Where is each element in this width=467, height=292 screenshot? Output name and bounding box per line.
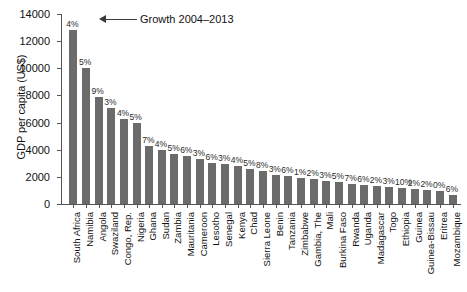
bar-data-label: 5% <box>130 113 142 122</box>
bar <box>145 146 153 204</box>
x-axis-tick <box>314 204 315 208</box>
bar-column: 4% <box>156 14 168 204</box>
x-axis-tick <box>453 204 454 208</box>
x-axis-tick <box>225 204 226 208</box>
y-axis-tick: 8000 <box>57 95 61 96</box>
bar-data-label: 6% <box>446 185 458 194</box>
y-axis-tick-label: 4000 <box>26 144 50 156</box>
y-axis-tick-label: 6000 <box>26 117 50 129</box>
x-axis-line <box>61 204 461 205</box>
bar-column: 5% <box>333 14 345 204</box>
x-axis-tick <box>137 204 138 208</box>
bar-column: 5% <box>168 14 180 204</box>
bar-data-label: 2% <box>420 180 432 189</box>
bar <box>221 164 229 204</box>
bar-data-label: 2% <box>370 176 382 185</box>
bar-data-label: 7% <box>345 174 357 183</box>
bar <box>246 169 254 204</box>
bar <box>373 186 381 204</box>
x-axis-tick <box>111 204 112 208</box>
y-axis-tick: 0 <box>57 204 61 205</box>
bar-column: 5% <box>80 14 92 204</box>
bar-data-label: 2% <box>408 179 420 188</box>
y-axis-tick-label: 2000 <box>26 171 50 183</box>
bar-column: 6% <box>282 14 294 204</box>
bar <box>82 68 90 204</box>
bar <box>411 189 419 204</box>
x-axis-tick <box>377 204 378 208</box>
x-axis-category-label: Tanzania <box>287 212 297 250</box>
bar <box>208 163 216 204</box>
bar-data-label: 5% <box>243 159 255 168</box>
x-axis-category-label: Sierra Leone <box>262 212 272 266</box>
bar <box>95 97 103 204</box>
bar <box>284 176 292 204</box>
y-axis-tick: 4000 <box>57 150 61 151</box>
x-axis-category-label: Congo, Rep. <box>123 212 133 265</box>
bar-data-label: 8% <box>256 161 268 170</box>
bar-column: 6% <box>358 14 370 204</box>
x-axis-tick <box>301 204 302 208</box>
x-axis-tick <box>276 204 277 208</box>
bar-column: 4% <box>232 14 244 204</box>
x-axis-category-label: Benin <box>275 212 285 236</box>
bar <box>196 159 204 204</box>
bar-data-label: 6% <box>180 146 192 155</box>
plot-area: 02000400060008000100001200014000 4%5%9%3… <box>61 14 461 204</box>
bar <box>335 182 343 204</box>
x-axis-category-label: Ethiopia <box>401 212 411 246</box>
bar-data-label: 6% <box>281 166 293 175</box>
x-axis-category-label: Cameroon <box>199 212 209 256</box>
x-axis-category-label: Mali <box>325 212 335 229</box>
y-axis-line <box>61 14 62 204</box>
bar-column: 6% <box>181 14 193 204</box>
x-axis-category-label: Namibia <box>85 212 95 247</box>
bar <box>449 195 457 204</box>
bar-column: 4% <box>67 14 79 204</box>
x-axis-tick <box>250 204 251 208</box>
bar <box>423 190 431 204</box>
y-axis-tick-label: 0 <box>44 198 50 210</box>
x-axis-category-label: South Africa <box>72 212 82 263</box>
bar-data-label: 5% <box>332 172 344 181</box>
bar-data-label: 4% <box>66 20 78 29</box>
x-axis-tick <box>238 204 239 208</box>
bar <box>170 154 178 204</box>
bar-column: 3% <box>194 14 206 204</box>
bar-data-label: 6% <box>205 153 217 162</box>
bar <box>436 191 444 204</box>
bar-column: 9% <box>93 14 105 204</box>
annotation-label: Growth 2004–2013 <box>140 13 234 25</box>
bar <box>133 123 141 204</box>
x-axis-category-label: Uganda <box>363 212 373 245</box>
bar <box>348 184 356 204</box>
x-axis-category-label: Burkina Faso <box>338 212 348 268</box>
x-axis-tick <box>427 204 428 208</box>
annotation-leader-line <box>105 19 137 20</box>
x-axis-category-label: Eritrea <box>439 212 449 240</box>
x-axis-tick <box>124 204 125 208</box>
bar <box>69 30 77 204</box>
bar-column: 3% <box>219 14 231 204</box>
bar-column: 4% <box>118 14 130 204</box>
x-axis-tick <box>200 204 201 208</box>
x-axis-category-label: Zambia <box>173 212 183 244</box>
bar-column: 7% <box>346 14 358 204</box>
x-axis-tick <box>364 204 365 208</box>
x-axis-category-label: Angola <box>98 212 108 242</box>
x-axis-category-label: Gambia, The <box>313 212 323 267</box>
bar <box>259 171 267 204</box>
bar-column: 7% <box>143 14 155 204</box>
bar <box>183 156 191 204</box>
bar-column: 0% <box>434 14 446 204</box>
x-axis-tick <box>162 204 163 208</box>
bar-column: 6% <box>447 14 459 204</box>
x-axis-category-label: Swaziland <box>110 212 120 255</box>
bar <box>360 185 368 204</box>
x-axis-tick <box>187 204 188 208</box>
bar-data-label: 5% <box>167 144 179 153</box>
x-axis-category-label: Chad <box>249 212 259 235</box>
bar-column: 5% <box>131 14 143 204</box>
bar-data-label: 3% <box>193 149 205 158</box>
bar-data-label: 4% <box>117 109 129 118</box>
